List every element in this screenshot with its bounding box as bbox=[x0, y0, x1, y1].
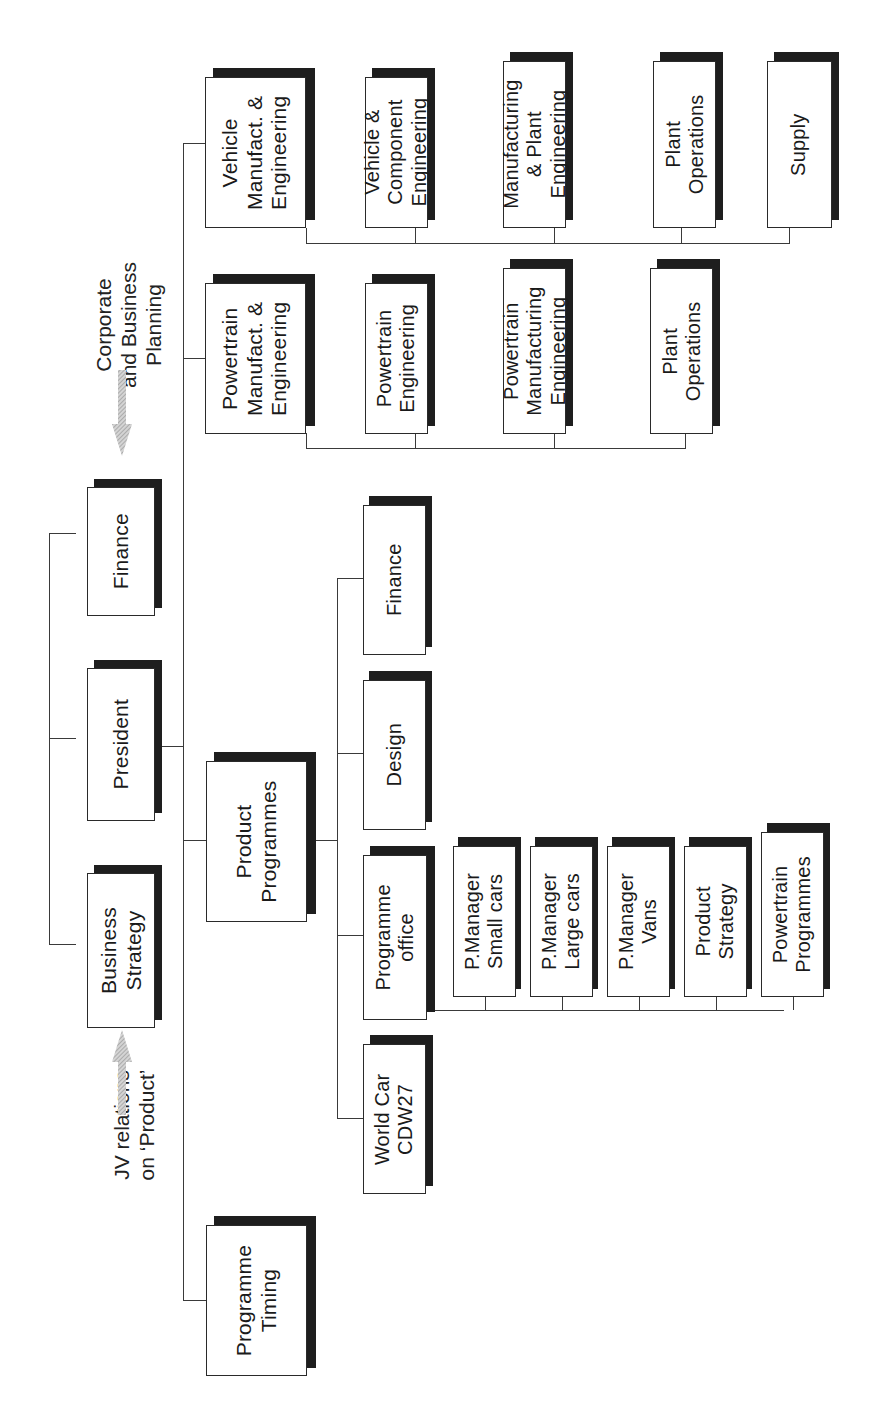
box: P.Manager Vans bbox=[607, 846, 670, 997]
connector-office-c4 bbox=[716, 996, 717, 1010]
box: Programme office bbox=[363, 855, 427, 1020]
node-pm-large-cars[interactable]: P.Manager Large cars bbox=[530, 837, 598, 997]
node-pp-finance[interactable]: Finance bbox=[363, 496, 432, 655]
box: Powertrain Manufacturing Engineering bbox=[503, 268, 566, 434]
connector-office-c2 bbox=[562, 996, 563, 1010]
org-chart-canvas: Corporate and Business Planning JV relat… bbox=[0, 0, 871, 1406]
connector-vehicle-div bbox=[183, 143, 205, 144]
node-label: Finance bbox=[109, 513, 134, 589]
connector-finance-top bbox=[49, 533, 76, 534]
node-label: Powertrain Manufacturing Engineering bbox=[499, 286, 569, 415]
node-label: Powertrain Manufact. & Engineering bbox=[219, 301, 293, 415]
connector-president-top bbox=[49, 738, 76, 739]
box: Business Strategy bbox=[87, 873, 155, 1028]
node-manufacturing-plant-engineering[interactable]: Manufacturing & Plant Engineering bbox=[503, 52, 573, 228]
node-label: P.Manager Vans bbox=[615, 873, 662, 970]
node-supply[interactable]: Supply bbox=[767, 52, 839, 228]
connector-pp-worldcar bbox=[337, 1118, 363, 1119]
connector-powertrain-c4 bbox=[685, 433, 686, 448]
node-powertrain-manufacturing-engineering[interactable]: Powertrain Manufacturing Engineering bbox=[503, 259, 573, 434]
node-powertrain-programmes[interactable]: Powertrain Programmes bbox=[761, 823, 830, 997]
connector-powertrain-c3 bbox=[554, 433, 555, 448]
node-label: Vehicle Manufact. & Engineering bbox=[219, 95, 293, 209]
box: Manufacturing & Plant Engineering bbox=[503, 61, 566, 228]
connector-main-trunk bbox=[183, 143, 184, 1301]
node-label: Powertrain Programmes bbox=[769, 856, 816, 972]
node-label: Manufacturing & Plant Engineering bbox=[499, 80, 569, 209]
box: President bbox=[87, 668, 155, 821]
box: Vehicle Manufact. & Engineering bbox=[205, 77, 306, 228]
box: Plant Operations bbox=[650, 268, 713, 434]
node-label: Vehicle & Component Engineering bbox=[361, 98, 431, 207]
node-vehicle-manufacturing[interactable]: Vehicle Manufact. & Engineering bbox=[205, 68, 315, 228]
node-label: Product Strategy bbox=[692, 883, 739, 959]
box: Design bbox=[363, 680, 426, 830]
box: Programme Timing bbox=[206, 1225, 307, 1376]
node-powertrain-manufacturing[interactable]: Powertrain Manufact. & Engineering bbox=[205, 274, 315, 434]
connector-office-bus bbox=[426, 1010, 784, 1011]
connector-product-programmes bbox=[183, 840, 206, 841]
box: P.Manager Small cars bbox=[453, 846, 516, 997]
connector-vehicle-c4 bbox=[681, 228, 682, 243]
connector-office-c3 bbox=[639, 996, 640, 1010]
node-label: Programme Timing bbox=[232, 1245, 281, 1357]
node-vehicle-component-engineering[interactable]: Vehicle & Component Engineering bbox=[365, 68, 435, 228]
box: P.Manager Large cars bbox=[530, 846, 593, 997]
connector-pp-design bbox=[337, 753, 363, 754]
node-label: Supply bbox=[788, 113, 811, 175]
connector-powertrain-c1 bbox=[306, 433, 307, 448]
node-label: President bbox=[109, 699, 134, 790]
box: World Car CDW27 bbox=[363, 1044, 426, 1194]
node-world-car[interactable]: World Car CDW27 bbox=[363, 1035, 433, 1194]
connector-pp-finance bbox=[337, 578, 363, 579]
box: Powertrain Manufact. & Engineering bbox=[205, 283, 306, 434]
connector-office-c5 bbox=[793, 996, 794, 1010]
node-label: Plant Operations bbox=[658, 301, 705, 401]
node-programme-office[interactable]: Programme office bbox=[363, 846, 435, 1020]
connector-vehicle-c5 bbox=[789, 228, 790, 243]
connector-vehicle-c1 bbox=[306, 228, 307, 243]
connector-vehicle-c2 bbox=[415, 228, 416, 243]
node-vehicle-plant-operations[interactable]: Plant Operations bbox=[653, 52, 723, 228]
box: Product Strategy bbox=[684, 846, 747, 997]
node-label: World Car CDW27 bbox=[371, 1073, 418, 1164]
node-pp-design[interactable]: Design bbox=[363, 671, 432, 830]
node-product-strategy[interactable]: Product Strategy bbox=[684, 837, 752, 997]
connector-powertrain-div bbox=[183, 358, 205, 359]
node-label: Design bbox=[383, 723, 406, 786]
node-business-strategy[interactable]: Business Strategy bbox=[87, 865, 162, 1028]
node-label: Finance bbox=[383, 544, 406, 617]
arrow-up-icon bbox=[111, 1030, 133, 1115]
node-president[interactable]: President bbox=[87, 660, 162, 821]
node-pm-small-cars[interactable]: P.Manager Small cars bbox=[453, 837, 521, 997]
box: Vehicle & Component Engineering bbox=[365, 77, 428, 228]
box: Finance bbox=[363, 505, 426, 655]
connector-programme-timing bbox=[183, 1300, 206, 1301]
annotation-corporate-planning: Corporate and Business Planning bbox=[91, 245, 181, 405]
connector-vehicle-c3 bbox=[554, 228, 555, 243]
connector-pp-office bbox=[337, 935, 363, 936]
node-product-programmes[interactable]: Product Programmes bbox=[206, 752, 316, 922]
box: Powertrain Engineering bbox=[365, 283, 428, 434]
arrow-down-icon bbox=[111, 370, 133, 458]
box: Supply bbox=[767, 61, 832, 228]
connector-powertrain-c2 bbox=[415, 433, 416, 448]
node-label: Business Strategy bbox=[96, 907, 145, 994]
node-powertrain-plant-operations[interactable]: Plant Operations bbox=[650, 259, 720, 434]
box: Product Programmes bbox=[206, 761, 307, 922]
node-label: P.Manager Small cars bbox=[461, 873, 508, 970]
box: Plant Operations bbox=[653, 61, 716, 228]
connector-business-strategy bbox=[49, 944, 76, 945]
connector-powertrain-bus bbox=[306, 448, 686, 449]
box: Finance bbox=[87, 487, 155, 616]
node-label: Plant Operations bbox=[661, 95, 708, 195]
node-label: Powertrain Engineering bbox=[373, 304, 420, 413]
node-finance-top[interactable]: Finance bbox=[87, 479, 162, 616]
node-label: Programme office bbox=[372, 884, 419, 990]
node-pm-vans[interactable]: P.Manager Vans bbox=[607, 837, 675, 997]
node-label: P.Manager Large cars bbox=[538, 873, 585, 970]
box: Powertrain Programmes bbox=[761, 832, 824, 997]
node-programme-timing[interactable]: Programme Timing bbox=[206, 1216, 316, 1376]
node-powertrain-engineering[interactable]: Powertrain Engineering bbox=[365, 274, 435, 434]
connector-office-c1 bbox=[485, 996, 486, 1010]
